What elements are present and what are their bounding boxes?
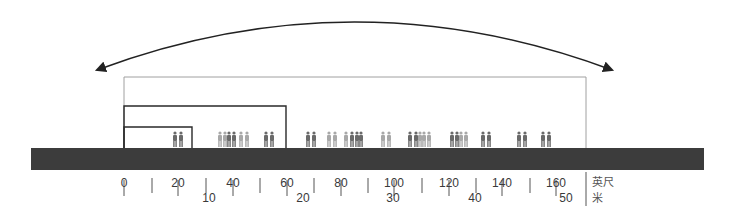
person-icon: [408, 131, 412, 147]
person-leg: [461, 141, 462, 148]
person-icon: [350, 131, 354, 147]
person-head: [359, 131, 362, 134]
person-leg: [270, 141, 271, 148]
person-icon: [227, 131, 231, 147]
person-torso: [387, 135, 391, 141]
person-icon: [418, 131, 422, 147]
person-torso: [418, 135, 422, 141]
person-leg: [383, 141, 384, 148]
person-leg: [329, 141, 330, 148]
person-torso: [333, 135, 337, 141]
meter-tick-label: 10: [202, 191, 216, 205]
person-leg: [239, 141, 240, 148]
person-head: [487, 131, 490, 134]
ground-slab: [31, 148, 704, 170]
person-leg: [361, 141, 362, 148]
person-icon: [264, 131, 268, 147]
person-leg: [173, 141, 174, 148]
person-head: [387, 131, 390, 134]
person-icon: [327, 131, 331, 147]
feet-tick-label: 100: [384, 176, 404, 190]
person-icon: [312, 131, 316, 147]
person-torso: [408, 135, 412, 141]
person-icon: [270, 131, 274, 147]
person-torso: [245, 135, 249, 141]
ground-band: [31, 148, 704, 170]
person-head: [450, 131, 453, 134]
person-icon: [487, 131, 491, 147]
person-icon: [455, 131, 459, 147]
person-leg: [466, 141, 467, 148]
person-head: [223, 131, 226, 134]
person-leg: [234, 141, 235, 148]
person-icon: [173, 131, 177, 147]
person-leg: [179, 141, 180, 148]
person-head: [355, 131, 358, 134]
person-leg: [547, 141, 548, 148]
person-head: [414, 131, 417, 134]
person-leg: [517, 141, 518, 148]
person-leg: [429, 141, 430, 148]
person-leg: [543, 141, 544, 148]
person-head: [218, 131, 221, 134]
person-icon: [414, 131, 418, 147]
person-icon: [459, 131, 463, 147]
person-icon: [333, 131, 337, 147]
person-icon: [359, 131, 363, 147]
person-head: [173, 131, 176, 134]
span-arrow: [97, 22, 612, 70]
person-torso: [381, 135, 385, 141]
person-torso: [173, 135, 177, 141]
person-leg: [389, 141, 390, 148]
person-torso: [223, 135, 227, 141]
person-leg: [241, 141, 242, 148]
person-icon: [387, 131, 391, 147]
person-head: [232, 131, 235, 134]
person-leg: [422, 141, 423, 148]
person-leg: [314, 141, 315, 148]
person-head: [239, 131, 242, 134]
person-head: [481, 131, 484, 134]
person-leg: [247, 141, 248, 148]
person-torso: [359, 135, 363, 141]
person-icon: [422, 131, 426, 147]
person-leg: [541, 141, 542, 148]
person-torso: [541, 135, 545, 141]
person-head: [541, 131, 544, 134]
person-leg: [357, 141, 358, 148]
person-leg: [381, 141, 382, 148]
person-icon: [381, 131, 385, 147]
person-head: [344, 131, 347, 134]
person-leg: [410, 141, 411, 148]
person-torso: [270, 135, 274, 141]
person-head: [427, 131, 430, 134]
person-leg: [408, 141, 409, 148]
person-icon: [232, 131, 236, 147]
meter-tick-label: 20: [296, 191, 310, 205]
person-leg: [452, 141, 453, 148]
person-leg: [355, 141, 356, 148]
person-leg: [327, 141, 328, 148]
person-leg: [387, 141, 388, 148]
person-leg: [424, 141, 425, 148]
person-head: [455, 131, 458, 134]
person-leg: [335, 141, 336, 148]
meter-tick-label: 30: [386, 191, 400, 205]
person-head: [264, 131, 267, 134]
person-torso: [264, 135, 268, 141]
person-leg: [418, 141, 419, 148]
person-icon: [239, 131, 243, 147]
person-torso: [179, 135, 183, 141]
person-torso: [306, 135, 310, 141]
person-leg: [420, 141, 421, 148]
person-torso: [232, 135, 236, 141]
person-leg: [223, 141, 224, 148]
person-icon: [523, 131, 527, 147]
person-leg: [225, 141, 226, 148]
section-diagram: 0204060801001201401601020304050英尺米: [0, 0, 730, 216]
meter-unit-label: 米: [592, 192, 603, 205]
person-head: [227, 131, 230, 134]
person-leg: [450, 141, 451, 148]
person-head: [547, 131, 550, 134]
person-leg: [459, 141, 460, 148]
